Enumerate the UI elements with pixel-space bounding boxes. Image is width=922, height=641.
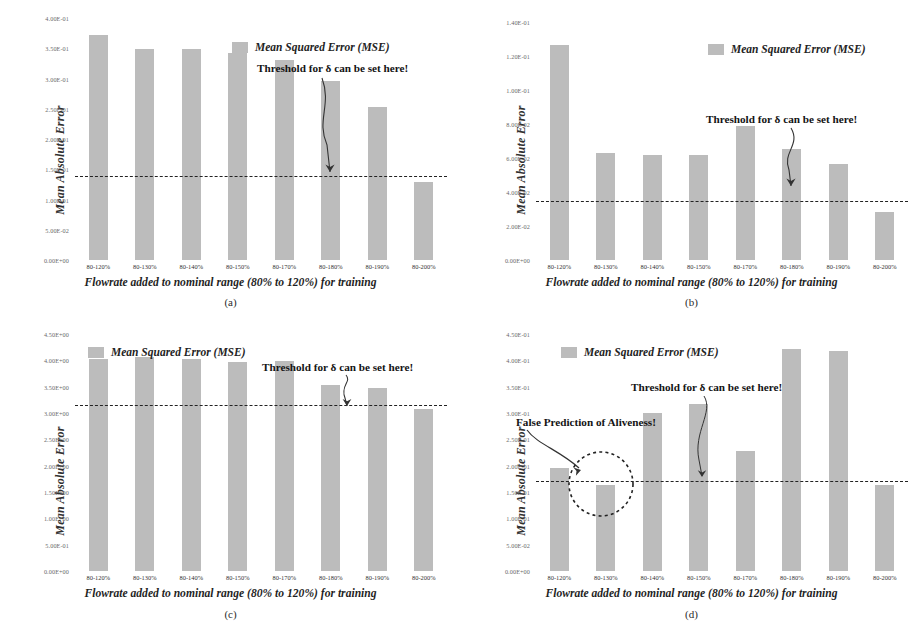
x-tick-label: 80-180% <box>780 263 803 270</box>
panel-a: Mean Absolute Error 4.00E-013.50E-013.00… <box>0 0 461 320</box>
x-tick-label: 80-180% <box>319 574 342 581</box>
y-tick-label: 1.40E-01 <box>506 19 530 26</box>
legend-swatch-icon-c <box>88 347 104 358</box>
figure-panel-grid: Mean Absolute Error 4.00E-013.50E-013.00… <box>0 0 922 641</box>
bars-d <box>536 334 908 571</box>
y-tick-label: 0.00E+00 <box>505 257 530 264</box>
bar <box>135 49 154 260</box>
threshold-annotation-a: Threshold for δ can be set here! <box>257 62 408 74</box>
x-tick-label: 80-180% <box>780 574 803 581</box>
x-tick-label: 80-120% <box>87 263 110 270</box>
bar <box>596 485 615 571</box>
panel-label-a: (a) <box>0 296 461 308</box>
bar <box>643 155 662 260</box>
bar <box>321 385 340 571</box>
y-tick-label: 5.00E-01 <box>45 541 69 548</box>
x-tick-label: 80-140% <box>641 574 664 581</box>
bar <box>829 164 848 260</box>
x-tick-label: 80-190% <box>827 574 850 581</box>
x-tick-label: 80-170% <box>273 574 296 581</box>
bar <box>182 49 201 260</box>
x-tick-label: 80-190% <box>366 574 389 581</box>
plot-area-b: 1.40E-011.20E-011.00E-018.00E-026.00E-02… <box>536 22 908 260</box>
x-axis-title-a: Flowrate added to nominal range (80% to … <box>0 276 461 289</box>
legend-label-b: Mean Squared Error (MSE) <box>731 43 866 55</box>
bar <box>321 81 340 260</box>
y-tick-label: 3.50E+00 <box>44 383 69 390</box>
x-tick-label: 80-170% <box>734 263 757 270</box>
x-tick-label: 80-190% <box>827 263 850 270</box>
y-tick-label: 4.50E+00 <box>44 331 69 338</box>
legend-c: Mean Squared Error (MSE) <box>88 346 246 358</box>
bars-b <box>536 22 908 260</box>
y-tick-label: 2.50E-01 <box>506 436 530 443</box>
x-tick-label: 80-120% <box>87 574 110 581</box>
bar <box>89 359 108 571</box>
plot-area-a: 4.00E-013.50E-013.00E-012.50E-012.00E-01… <box>75 18 447 260</box>
bar <box>689 155 708 260</box>
x-tick-label: 80-120% <box>548 263 571 270</box>
legend-swatch-icon-d <box>561 347 577 358</box>
y-tick-label: 3.00E+00 <box>44 410 69 417</box>
panel-label-c: (c) <box>0 608 461 620</box>
x-tick-label: 80-200% <box>412 574 435 581</box>
x-tick-label: 80-130% <box>133 574 156 581</box>
y-tick-label: 5.00E-02 <box>506 541 530 548</box>
y-tick-label: 2.00E+00 <box>44 462 69 469</box>
x-tick-label: 80-170% <box>273 263 296 270</box>
bar <box>275 60 294 260</box>
threshold-annotation-b: Threshold for δ can be set here! <box>706 113 857 125</box>
bar <box>875 212 894 260</box>
y-tick-label: 4.00E-02 <box>506 189 530 196</box>
bars-a <box>75 18 447 260</box>
x-tick-label: 80-130% <box>133 263 156 270</box>
panel-d: Mean Absolute Error 4.50E-014.00E-013.50… <box>461 320 922 641</box>
y-tick-label: 1.50E+00 <box>44 489 69 496</box>
y-tick-label: 2.00E-01 <box>506 462 530 469</box>
panel-b: Mean Absolute Error 1.40E-011.20E-011.00… <box>461 0 922 320</box>
x-tick-label: 80-120% <box>548 574 571 581</box>
y-tick-label: 4.00E-01 <box>45 15 69 22</box>
x-tick-label: 80-180% <box>319 263 342 270</box>
bar <box>228 53 247 261</box>
y-tick-label: 0.00E+00 <box>505 568 530 575</box>
y-tick-label: 6.00E-02 <box>506 155 530 162</box>
x-tick-label: 80-140% <box>180 574 203 581</box>
threshold-line-a <box>75 176 447 177</box>
y-tick-label: 1.50E-01 <box>506 489 530 496</box>
y-tick-label: 8.00E-02 <box>506 121 530 128</box>
y-tick-label: 3.50E-01 <box>506 383 530 390</box>
bar <box>596 153 615 260</box>
x-tick-label: 80-200% <box>873 574 896 581</box>
y-tick-label: 2.00E-02 <box>506 223 530 230</box>
panel-label-b: (b) <box>461 296 922 308</box>
bar <box>736 126 755 260</box>
x-tick-label: 80-150% <box>226 574 249 581</box>
threshold-annotation-d: Threshold for δ can be set here! <box>631 381 782 393</box>
bar <box>875 485 894 571</box>
y-tick-label: 1.00E-01 <box>506 515 530 522</box>
threshold-annotation-c: Threshold for δ can be set here! <box>262 361 413 373</box>
legend-swatch-icon-a <box>232 42 248 53</box>
bar <box>736 451 755 571</box>
bar <box>550 468 569 571</box>
false-prediction-annotation-d: False Prediction of Aliveness! <box>516 416 656 428</box>
bar <box>643 413 662 571</box>
y-tick-label: 1.00E+00 <box>44 515 69 522</box>
bar <box>782 349 801 571</box>
bar <box>368 107 387 260</box>
threshold-line-c <box>75 405 447 406</box>
bar <box>368 388 387 571</box>
x-tick-label: 80-140% <box>180 263 203 270</box>
y-tick-label: 1.00E-01 <box>45 196 69 203</box>
bar <box>829 351 848 571</box>
x-tick-label: 80-150% <box>226 263 249 270</box>
bar <box>414 409 433 571</box>
x-tick-label: 80-200% <box>412 263 435 270</box>
x-tick-label: 80-190% <box>366 263 389 270</box>
bar <box>228 362 247 571</box>
x-axis-title-d: Flowrate added to nominal range (80% to … <box>461 587 922 600</box>
threshold-line-b <box>536 201 908 202</box>
x-tick-label: 80-130% <box>594 574 617 581</box>
bar <box>275 361 294 571</box>
